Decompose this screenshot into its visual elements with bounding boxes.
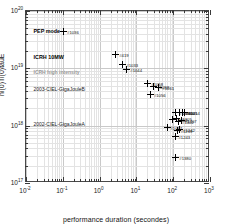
- data-point: [156, 85, 161, 90]
- data-point-label: #1056: [154, 92, 166, 97]
- plot-annotation: ICRH high intensity: [34, 69, 80, 75]
- data-point: [180, 110, 185, 115]
- data-point: [113, 52, 118, 57]
- data-point: [148, 92, 153, 97]
- x-tick-label: 10-1: [56, 186, 67, 194]
- plot-annotation: PEP mode: [34, 28, 61, 34]
- y-tick-label: 1018: [5, 121, 23, 129]
- data-point: [165, 125, 170, 130]
- x-axis-title: performance duration (secondes): [0, 216, 232, 223]
- data-point-label: #1242: [183, 128, 195, 133]
- plot-annotation: ICRH 10MW: [34, 54, 64, 60]
- data-point: [173, 155, 178, 160]
- data-point-label: #1402: [182, 119, 194, 124]
- x-tick-label: 101: [130, 186, 140, 194]
- data-point-label: #1036: [67, 29, 79, 34]
- figure-container: #1036#419#1033#1044#1058#1059#1061#1056#…: [0, 0, 232, 224]
- data-point-label: #1380: [179, 156, 191, 161]
- data-point-label: #1061: [162, 85, 174, 90]
- data-point-label: #1044: [130, 67, 142, 72]
- plot-area: #1036#419#1033#1044#1058#1059#1061#1056#…: [25, 10, 209, 182]
- data-point: [124, 67, 129, 72]
- data-point: [176, 119, 181, 124]
- data-point: [61, 29, 66, 34]
- data-point-label: #1243: [179, 134, 191, 139]
- plot-annotation: 2003-CIEL-GigaJouleB: [34, 86, 85, 92]
- x-tick-label: 100: [94, 186, 104, 194]
- data-point-label: #419: [119, 53, 128, 58]
- plot-annotation: 2002-CIEL-GigaJouleA: [34, 121, 85, 127]
- y-tick-label: 1019: [5, 63, 23, 71]
- data-point: [173, 134, 178, 139]
- data-point-label: #1405: [186, 110, 198, 115]
- y-axis-title: ni(0)Ti(0)tauE: [0, 53, 5, 96]
- y-tick-label: 1017: [5, 178, 23, 186]
- x-tick-label: 102: [167, 186, 177, 194]
- x-tick-label: 103: [204, 186, 214, 194]
- x-tick-label: 10-2: [19, 186, 30, 194]
- data-point: [177, 127, 182, 132]
- y-tick-label: 1020: [5, 6, 23, 14]
